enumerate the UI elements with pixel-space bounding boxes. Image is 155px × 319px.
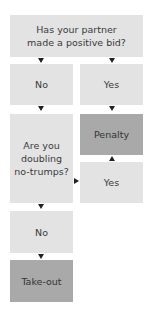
answer-yes-text: Yes	[104, 78, 119, 91]
arrow-down-icon	[38, 254, 44, 259]
answer-yes-box: Yes	[80, 64, 143, 105]
question-doubling-no-trumps-text: Are you doubling no-trumps?	[12, 139, 71, 178]
answer-no-box: No	[10, 64, 73, 105]
answer-no-text: No	[35, 78, 48, 91]
answer-yes-doubling-text: Yes	[104, 176, 119, 189]
answer-no-doubling-box: No	[10, 211, 73, 253]
question-partner-positive-bid: Has your partner made a positive bid?	[10, 15, 143, 57]
arrow-down-icon	[109, 106, 115, 111]
question-partner-positive-bid-text: Has your partner made a positive bid?	[26, 23, 127, 49]
question-doubling-no-trumps: Are you doubling no-trumps?	[10, 114, 73, 203]
result-penalty-text: Penalty	[94, 128, 129, 141]
arrow-down-icon	[38, 204, 44, 209]
arrow-down-icon	[109, 58, 115, 63]
result-takeout-text: Take-out	[21, 275, 61, 288]
answer-no-doubling-text: No	[35, 226, 48, 239]
arrow-up-icon	[109, 156, 115, 161]
arrow-right-icon	[74, 178, 79, 184]
answer-yes-doubling-box: Yes	[80, 162, 143, 203]
result-penalty-box: Penalty	[80, 114, 143, 155]
arrow-down-icon	[38, 106, 44, 111]
result-takeout-box: Take-out	[10, 260, 73, 302]
arrow-down-icon	[38, 58, 44, 63]
